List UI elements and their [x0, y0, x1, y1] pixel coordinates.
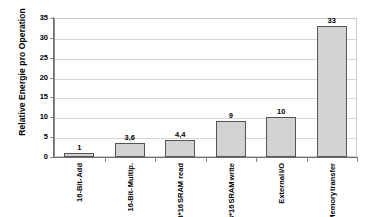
bars-layer: 13,64,491033 — [54, 18, 357, 157]
x-axis-category-label-line: 8*128*16 — [176, 204, 185, 217]
bar-value-label: 10 — [277, 108, 285, 116]
x-axis-tick-mark — [357, 158, 358, 162]
x-axis-category-label-inner: 16-BitMemorytransfer — [327, 163, 336, 217]
x-axis-category-label-line: External — [277, 174, 286, 204]
bar-slot: 3,6 — [105, 18, 156, 157]
x-axis-category-label: 8*128*16SRAMwrite — [206, 163, 257, 215]
x-axis-tick-mark — [155, 158, 156, 162]
x-axis-category-label-inner: 16-Bit-Add — [75, 163, 84, 202]
bar-value-label: 4,4 — [175, 131, 185, 139]
x-axis-category-label-inner: 8*128*16SRAMwrite — [226, 163, 235, 217]
x-axis-tick-mark — [206, 158, 207, 162]
y-axis-tick-label: 0 — [26, 153, 48, 161]
bar-value-label: 9 — [229, 112, 233, 120]
x-axis-category-label-line: 16-Bit- — [75, 179, 84, 202]
x-axis-category-label: ExternalI/O — [256, 163, 307, 215]
y-axis-tick-label: 30 — [26, 34, 48, 42]
x-axis-category-label-line: SRAM — [226, 182, 235, 204]
bar-slot: 10 — [256, 18, 307, 157]
x-axis-category-label-inner: 16-Bit-Multip. — [125, 163, 134, 212]
bar-slot: 4,4 — [155, 18, 206, 157]
y-axis-tick-label: 25 — [26, 54, 48, 62]
y-axis-tick-label: 15 — [26, 93, 48, 101]
bar-value-label: 3,6 — [125, 134, 135, 142]
x-axis-category-label: 16-Bit-Multip. — [105, 163, 156, 215]
x-axis-category-label: 16-Bit-Add — [54, 163, 105, 215]
x-axis-category-label-inner: 8*128*16SRAM read — [176, 163, 185, 217]
x-axis-category-label-line: 8*128*16 — [226, 205, 235, 217]
x-axis-category-label-line: transfer — [327, 163, 336, 191]
x-axis-tick-mark — [105, 158, 106, 162]
x-axis-category-label-line: 16-Bit- — [125, 188, 134, 211]
x-axis-category-label-line: Multip. — [125, 163, 134, 187]
x-axis-category-label-line: Memory — [327, 192, 336, 217]
x-axis-category-label-line: SRAM read — [176, 163, 185, 203]
bar-slot: 33 — [307, 18, 358, 157]
bar-chart: Relative Energie pro Operation 051015202… — [0, 0, 369, 217]
bar[interactable] — [266, 117, 296, 157]
bar[interactable] — [216, 121, 246, 157]
x-axis-category-label-line: Add — [75, 163, 84, 178]
x-axis-category-label-inner: ExternalI/O — [277, 163, 286, 204]
bar-value-label: 33 — [328, 17, 336, 25]
x-axis-tick-mark — [307, 158, 308, 162]
bar-value-label: 1 — [77, 144, 81, 152]
y-axis-tick-label: 20 — [26, 74, 48, 82]
bar-slot: 9 — [206, 18, 257, 157]
x-axis-tick-mark — [256, 158, 257, 162]
x-axis-category-label: 16-BitMemorytransfer — [307, 163, 358, 215]
x-axis-category-label-line: I/O — [277, 163, 286, 173]
x-axis-category-label-line: write — [226, 163, 235, 181]
bar-slot: 1 — [54, 18, 105, 157]
y-axis-tick-labels: 05101520253035 — [26, 0, 48, 217]
y-axis-tick-label: 5 — [26, 133, 48, 141]
bar[interactable] — [165, 140, 195, 157]
bar[interactable] — [64, 153, 94, 157]
y-axis-tick-label: 10 — [26, 113, 48, 121]
x-axis-category-label: 8*128*16SRAM read — [155, 163, 206, 215]
bar[interactable] — [115, 143, 145, 157]
x-axis-category-labels: 16-Bit-Add16-Bit-Multip.8*128*16SRAM rea… — [54, 163, 357, 217]
y-axis-tick-label: 35 — [26, 14, 48, 22]
bar[interactable] — [317, 26, 347, 157]
